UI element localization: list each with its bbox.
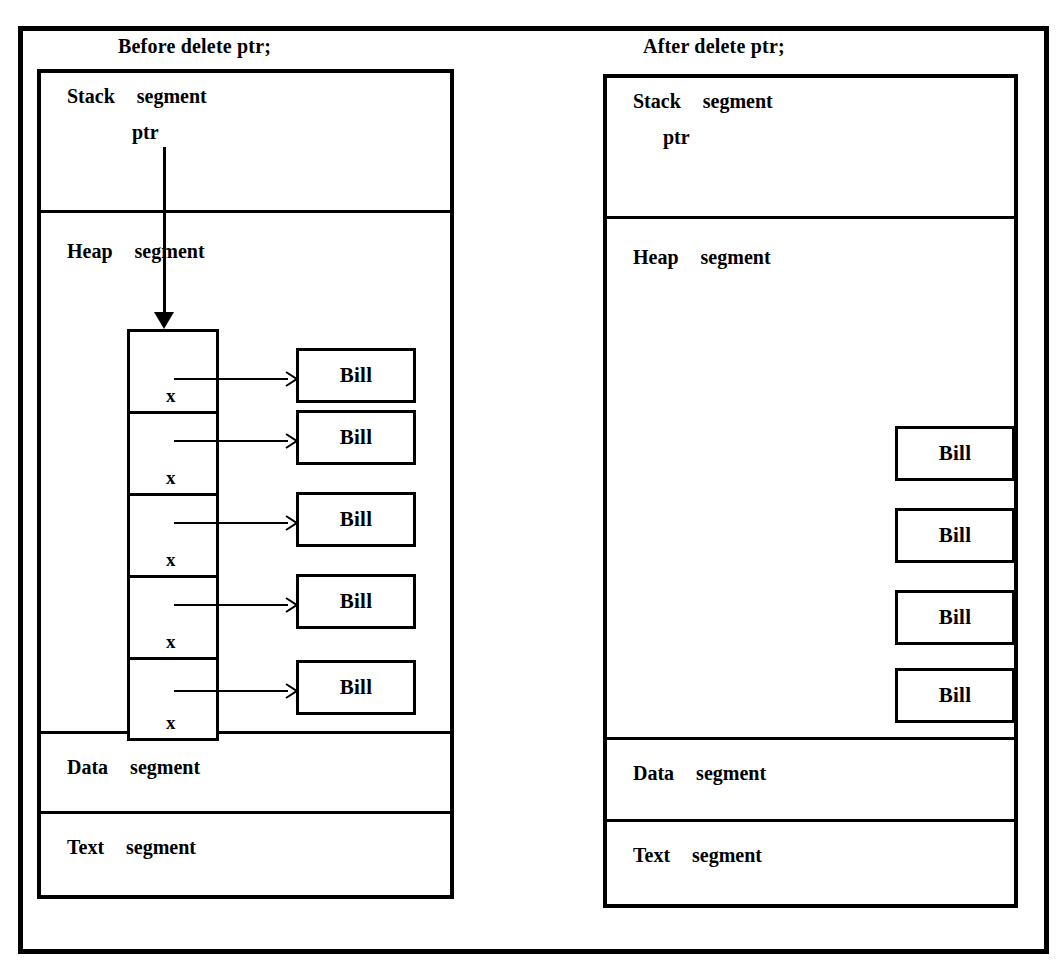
segment-label-text-after: Textsegment xyxy=(633,844,762,867)
heap-object-label: Bill xyxy=(340,363,373,388)
panel-caption-before: Before delete ptr; xyxy=(118,35,271,58)
segment-word-stack-after: segment xyxy=(703,90,773,112)
divider-stack-heap-after xyxy=(607,216,1014,219)
array-slot: x xyxy=(130,660,216,738)
pointer-link-line xyxy=(174,378,288,380)
heap-object-box: Bill xyxy=(296,348,416,403)
diagram-canvas: Before delete ptr; Stacksegment ptr Heap… xyxy=(0,0,1063,971)
segment-label-data-before: Datasegment xyxy=(67,756,200,779)
segment-name-text-before: Text xyxy=(67,836,104,858)
array-slot: x xyxy=(130,332,216,414)
memory-map-before: Stacksegment ptr Heapsegment x x x xyxy=(37,69,454,899)
heap-object-label: Bill xyxy=(340,589,373,614)
heap-pointer-array-before: x x x x x xyxy=(127,329,219,741)
pointer-link-line xyxy=(174,522,288,524)
array-slot: x xyxy=(130,496,216,578)
segment-word-stack-before: segment xyxy=(137,85,207,107)
divider-data-text-after xyxy=(607,819,1014,822)
heap-object-label: Bill xyxy=(939,523,972,548)
segment-name-data-before: Data xyxy=(67,756,108,778)
stack-variable-ptr-before: ptr xyxy=(132,121,159,144)
segment-label-stack-before: Stacksegment xyxy=(67,85,207,108)
segment-label-heap-before: Heapsegment xyxy=(67,240,205,263)
heap-object-label: Bill xyxy=(340,425,373,450)
heap-object-label: Bill xyxy=(939,441,972,466)
ptr-arrow-head-before xyxy=(154,312,174,329)
segment-name-heap-after: Heap xyxy=(633,246,679,268)
heap-object-label: Bill xyxy=(340,675,373,700)
array-slot-value: x xyxy=(166,468,176,487)
segment-label-heap-after: Heapsegment xyxy=(633,246,771,269)
figure-outer-frame: Before delete ptr; Stacksegment ptr Heap… xyxy=(18,26,1049,954)
stack-variable-ptr-after: ptr xyxy=(663,126,690,149)
array-slot-value: x xyxy=(166,632,176,651)
segment-label-text-before: Textsegment xyxy=(67,836,196,859)
heap-object-label: Bill xyxy=(939,683,972,708)
segment-name-text-after: Text xyxy=(633,844,670,866)
array-slot-value: x xyxy=(166,386,176,405)
segment-name-stack-after: Stack xyxy=(633,90,681,112)
segment-word-data-before: segment xyxy=(130,756,200,778)
segment-word-heap-after: segment xyxy=(701,246,771,268)
heap-object-box: Bill xyxy=(296,660,416,715)
segment-name-stack-before: Stack xyxy=(67,85,115,107)
array-slot-value: x xyxy=(166,550,176,569)
heap-object-box: Bill xyxy=(296,574,416,629)
divider-data-text-before xyxy=(41,811,450,814)
divider-stack-heap-before xyxy=(41,210,450,213)
segment-name-heap-before: Heap xyxy=(67,240,113,262)
segment-label-data-after: Datasegment xyxy=(633,762,766,785)
segment-label-stack-after: Stacksegment xyxy=(633,90,773,113)
heap-object-box: Bill xyxy=(296,492,416,547)
heap-object-box: Bill xyxy=(895,590,1015,645)
divider-heap-data-after xyxy=(607,737,1014,740)
heap-object-label: Bill xyxy=(340,507,373,532)
panel-caption-after: After delete ptr; xyxy=(643,35,785,58)
pointer-link-line xyxy=(174,440,288,442)
segment-word-heap-before: segment xyxy=(135,240,205,262)
array-slot: x xyxy=(130,414,216,496)
heap-object-box: Bill xyxy=(895,668,1015,723)
array-slot-value: x xyxy=(166,713,176,732)
segment-word-text-before: segment xyxy=(126,836,196,858)
heap-object-box: Bill xyxy=(296,410,416,465)
heap-object-box: Bill xyxy=(895,426,1015,481)
pointer-link-line xyxy=(174,604,288,606)
array-slot: x xyxy=(130,578,216,660)
heap-object-box: Bill xyxy=(895,508,1015,563)
pointer-link-line xyxy=(174,690,288,692)
divider-heap-data-before xyxy=(41,731,450,734)
memory-map-after: Stacksegment ptr Heapsegment Bill Bill B… xyxy=(603,74,1018,908)
segment-word-data-after: segment xyxy=(696,762,766,784)
segment-word-text-after: segment xyxy=(692,844,762,866)
segment-name-data-after: Data xyxy=(633,762,674,784)
ptr-arrow-shaft-before xyxy=(163,147,166,314)
heap-object-label: Bill xyxy=(939,605,972,630)
